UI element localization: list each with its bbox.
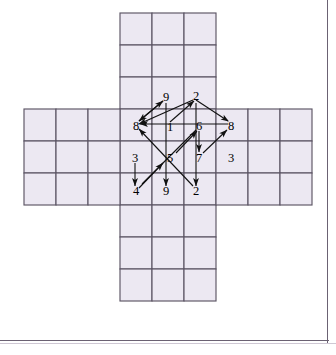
figure-page: 9281683573492 [0, 0, 336, 355]
net-cell [24, 141, 56, 173]
net-cell [280, 141, 312, 173]
net-cell [248, 173, 280, 205]
net-cell [88, 109, 120, 141]
net-cell [120, 237, 152, 269]
label-2-bottom: 2 [193, 185, 199, 198]
label-4-bottom: 4 [133, 185, 139, 198]
net-cell [24, 173, 56, 205]
net-cell [120, 77, 152, 109]
net-cell [184, 205, 216, 237]
label-3-left: 3 [132, 152, 138, 165]
net-cell [280, 109, 312, 141]
label-8-left: 8 [133, 120, 139, 133]
net-cell [152, 237, 184, 269]
label-9-bottom: 9 [163, 185, 169, 198]
net-cell [24, 109, 56, 141]
net-cell [88, 173, 120, 205]
net-cell [184, 45, 216, 77]
label-9-top: 9 [163, 91, 169, 104]
net-cell [120, 45, 152, 77]
label-1-center: 1 [167, 121, 173, 134]
cube-net-svg [0, 0, 336, 355]
label-6-center: 6 [196, 120, 202, 133]
net-cell [280, 173, 312, 205]
label-7-center: 7 [196, 152, 202, 165]
cube-net-figure: 9281683573492 [0, 0, 336, 355]
net-cell [216, 173, 248, 205]
net-cell [56, 173, 88, 205]
net-cell [120, 205, 152, 237]
net-cell [248, 109, 280, 141]
net-cell [120, 13, 152, 45]
label-5-center: 5 [167, 152, 173, 165]
net-cell [56, 109, 88, 141]
net-cell [248, 141, 280, 173]
net-cell [184, 237, 216, 269]
net-cell [152, 205, 184, 237]
net-cell [152, 13, 184, 45]
net-cell [184, 77, 216, 109]
label-8-right: 8 [228, 120, 234, 133]
net-cell [56, 141, 88, 173]
label-2-top: 2 [193, 90, 199, 103]
net-cell [152, 269, 184, 301]
net-cell [184, 269, 216, 301]
net-cell [184, 173, 216, 205]
net-cell [120, 269, 152, 301]
net-cell [152, 45, 184, 77]
net-cell [88, 141, 120, 173]
label-3-right: 3 [228, 152, 234, 165]
net-cell [184, 13, 216, 45]
